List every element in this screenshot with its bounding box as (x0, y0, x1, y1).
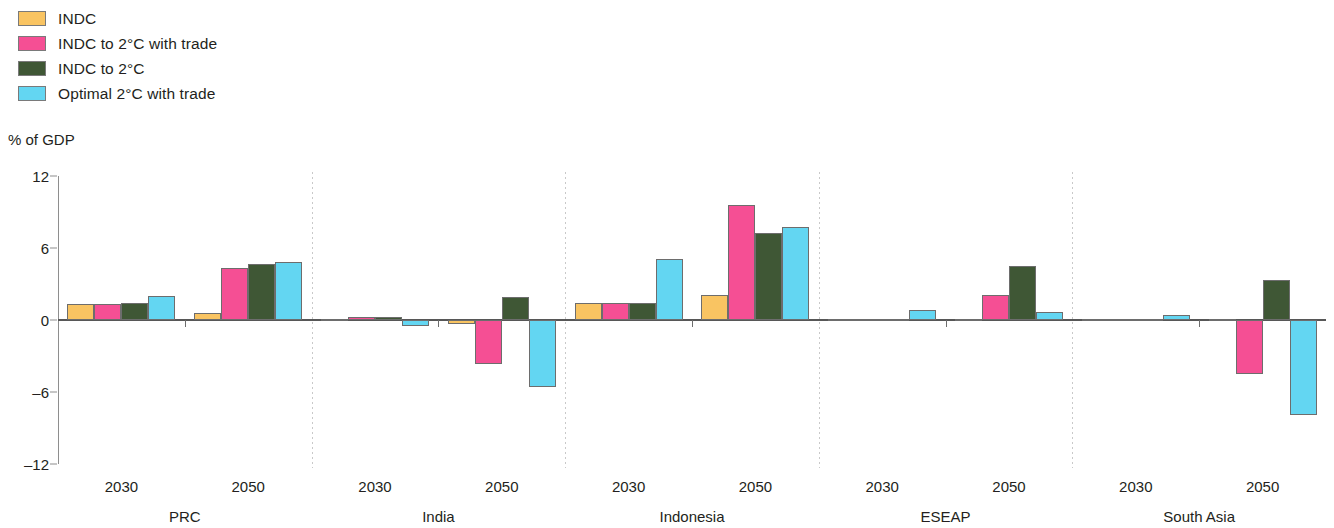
bar (121, 303, 148, 320)
chart-legend: INDCINDC to 2°C with tradeINDC to 2°COpt… (18, 6, 217, 106)
x-axis-group-label: PRC (169, 508, 201, 525)
bar (828, 319, 855, 321)
x-axis-year-label: 2030 (358, 478, 391, 495)
bar (448, 320, 475, 324)
bar (1136, 319, 1163, 321)
bar (67, 304, 94, 320)
legend-swatch (18, 61, 46, 76)
legend-item: Optimal 2°C with trade (18, 81, 217, 106)
y-tick-label: 12 (32, 169, 49, 184)
bar (882, 319, 909, 321)
plot-area: 1260–6–12 (58, 176, 1326, 464)
group-separator (819, 172, 820, 468)
bar (728, 205, 755, 320)
y-axis-title: % of GDP (8, 131, 75, 148)
bar (575, 303, 602, 320)
bar (321, 319, 348, 321)
bar (1163, 315, 1190, 320)
bar (755, 233, 782, 320)
bar (1109, 319, 1136, 321)
y-tick-label: –12 (24, 457, 49, 472)
x-tick-mark (946, 320, 947, 327)
bar (375, 317, 402, 320)
x-axis-year-label: 2030 (866, 478, 899, 495)
x-axis-year-label: 2050 (485, 478, 518, 495)
bar (855, 319, 882, 321)
y-tick-mark (50, 464, 57, 465)
x-axis-year-label: 2050 (232, 478, 265, 495)
bar (629, 303, 656, 320)
legend-label: Optimal 2°C with trade (58, 85, 215, 103)
bar (656, 259, 683, 320)
y-tick-mark (50, 392, 57, 393)
bar (402, 320, 429, 326)
group-separator (565, 172, 566, 468)
group-separator (312, 172, 313, 468)
x-axis-year-label: 2030 (105, 478, 138, 495)
x-axis-group-label: India (422, 508, 455, 525)
x-axis-year-label: 2030 (612, 478, 645, 495)
bar (602, 303, 629, 320)
y-tick-mark (50, 320, 57, 321)
bar (248, 264, 275, 320)
bar (502, 297, 529, 320)
legend-item: INDC to 2°C (18, 56, 217, 81)
legend-item: INDC to 2°C with trade (18, 31, 217, 56)
bar (194, 313, 221, 320)
bar (348, 317, 375, 320)
legend-label: INDC (58, 10, 96, 28)
bar (1263, 280, 1290, 320)
y-tick-mark (50, 176, 57, 177)
group-separator (1072, 172, 1073, 468)
x-axis-year-label: 2050 (739, 478, 772, 495)
bar (1209, 319, 1236, 321)
bar (529, 320, 556, 387)
bar (1236, 320, 1263, 374)
bar (475, 320, 502, 364)
x-tick-mark (185, 320, 186, 327)
bar (701, 295, 728, 320)
y-tick-label: –6 (32, 385, 49, 400)
legend-item: INDC (18, 6, 217, 31)
chart-root: INDCINDC to 2°C with tradeINDC to 2°COpt… (0, 0, 1334, 528)
x-axis-group-label: ESEAP (921, 508, 971, 525)
legend-swatch (18, 11, 46, 26)
bar (94, 304, 121, 320)
x-tick-mark (692, 320, 693, 327)
bar (1290, 320, 1317, 415)
x-tick-mark (438, 320, 439, 327)
x-axis-year-label: 2030 (1119, 478, 1152, 495)
x-axis-year-label: 2050 (1246, 478, 1279, 495)
y-tick-label: 0 (41, 313, 49, 328)
x-axis-group-label: South Asia (1163, 508, 1235, 525)
bar (1036, 312, 1063, 320)
x-axis-group-label: Indonesia (659, 508, 724, 525)
bar (1082, 319, 1109, 321)
bar (1009, 266, 1036, 320)
bar (148, 296, 175, 320)
y-tick-label: 6 (41, 241, 49, 256)
legend-label: INDC to 2°C with trade (58, 35, 217, 53)
bar (221, 268, 248, 320)
legend-swatch (18, 36, 46, 51)
bar (782, 227, 809, 320)
x-tick-mark (1199, 320, 1200, 327)
legend-swatch (18, 86, 46, 101)
bar (275, 262, 302, 320)
legend-label: INDC to 2°C (58, 60, 145, 78)
x-axis-year-label: 2050 (992, 478, 1025, 495)
bar (909, 310, 936, 320)
bar (955, 319, 982, 321)
y-tick-mark (50, 248, 57, 249)
bar (982, 295, 1009, 320)
